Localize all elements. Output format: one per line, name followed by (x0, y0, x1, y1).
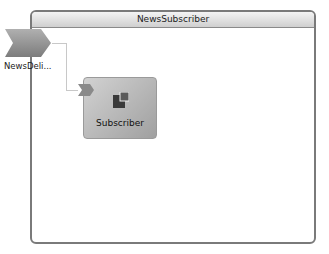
connector-line (66, 43, 67, 90)
port-chevron-icon[interactable] (78, 84, 94, 96)
connector-line (52, 43, 66, 44)
external-port-label: NewsDeli... (4, 61, 52, 71)
component-icon (113, 92, 129, 108)
subscriber-component[interactable]: Subscriber (83, 77, 157, 139)
connector-line (66, 90, 78, 91)
container-title: NewsSubscriber (32, 12, 314, 28)
port-chevron-icon[interactable] (5, 29, 51, 57)
news-subscriber-container[interactable]: NewsSubscriber (30, 10, 316, 244)
component-label: Subscriber (84, 118, 156, 128)
